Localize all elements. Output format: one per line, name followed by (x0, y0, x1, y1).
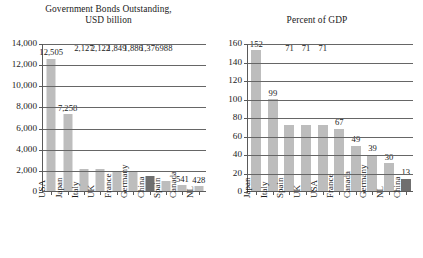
bar-value-label: 71 (285, 44, 294, 53)
gridline (248, 118, 413, 119)
y-axis-tick (244, 81, 248, 82)
x-axis-category-label: Spain (276, 177, 285, 198)
bar (284, 125, 294, 191)
x-axis-category-label: Canada (342, 171, 351, 198)
x-axis-category-label: UK (293, 185, 302, 198)
chart-title-left: Government Bonds Outstanding, USD billio… (12, 4, 205, 26)
y-axis-tick-label: 80 (233, 113, 242, 122)
x-axis-category-label: USA (309, 180, 318, 198)
x-axis-tick (289, 191, 290, 195)
x-axis-tick (306, 191, 307, 195)
x-axis-tick (51, 191, 52, 195)
bar-value-label: 39 (368, 144, 377, 153)
y-axis-tick (244, 44, 248, 45)
x-axis-category-label: Germany (359, 165, 368, 199)
y-axis-tick (244, 155, 248, 156)
x-axis-tick (372, 191, 373, 195)
y-axis-tick (244, 63, 248, 64)
y-axis-tick (39, 192, 43, 193)
gridline (248, 81, 413, 82)
x-axis-category-label: UK (87, 185, 96, 198)
gridline (43, 65, 206, 66)
x-axis-category-label: France (103, 174, 112, 199)
bar-value-label: 99 (269, 89, 278, 98)
gridline (248, 63, 413, 64)
x-axis-category-label: China (136, 177, 145, 199)
y-axis-tick-label: 6,000 (16, 124, 37, 133)
bar (251, 50, 261, 191)
bar-value-label: 71 (318, 44, 327, 53)
x-axis-category-label: Italy (70, 182, 79, 199)
y-axis-tick (244, 118, 248, 119)
y-axis-tick (244, 174, 248, 175)
chart-panel-percent-of-gdp: Percent of GDP 152Japan99Italy71Spain71U… (211, 0, 423, 258)
x-axis-tick (406, 191, 407, 195)
bar-value-label: 428 (192, 176, 205, 185)
gridline (43, 129, 206, 130)
y-axis-tick-label: 40 (233, 150, 242, 159)
gridline (43, 171, 206, 172)
y-axis-tick-label: 120 (228, 76, 242, 85)
bar-value-label: 67 (335, 118, 344, 127)
x-axis-category-label: Spain (152, 177, 161, 198)
two-panel-bar-chart-figure: Government Bonds Outstanding, USD billio… (0, 0, 423, 258)
x-axis-category-label: Japan (243, 178, 252, 199)
x-axis-category-label: USA (38, 180, 47, 198)
y-axis-tick-label: 8,000 (16, 103, 37, 112)
x-axis-category-label: Canada (169, 171, 178, 198)
y-axis-tick-label: 10,000 (12, 82, 37, 91)
x-axis-tick (133, 191, 134, 195)
y-axis-tick-label: 140 (228, 58, 242, 67)
chart-title-right: Percent of GDP (219, 15, 415, 26)
y-axis-tick-label: 160 (228, 39, 242, 48)
bar (401, 179, 411, 191)
gridline (248, 155, 413, 156)
plot-area-left: 12,505USA7,258Japan2,127Italy2,122UK1,84… (42, 44, 206, 192)
x-axis-tick (389, 191, 390, 195)
y-axis-tick (39, 171, 43, 172)
y-axis-tick (39, 86, 43, 87)
x-axis-category-label: Germany (120, 165, 129, 199)
gridline (248, 44, 413, 45)
x-axis-tick (182, 191, 183, 195)
y-axis-tick-label: 2,000 (16, 166, 37, 175)
gridline (43, 86, 206, 87)
bar-value-label: 1,376 (140, 44, 159, 53)
gridline (43, 44, 206, 45)
y-axis-tick (39, 129, 43, 130)
y-axis-tick (244, 192, 248, 193)
x-axis-tick (339, 191, 340, 195)
y-axis-tick (244, 100, 248, 101)
chart-panel-government-bonds: Government Bonds Outstanding, USD billio… (0, 0, 211, 258)
y-axis-tick-label: 12,000 (12, 61, 37, 70)
x-axis-category-label: Italy (259, 182, 268, 199)
x-axis-category-label: China (392, 177, 401, 199)
y-axis-tick (39, 150, 43, 151)
bar-value-label: 71 (302, 44, 311, 53)
x-axis-tick (256, 191, 257, 195)
gridline (43, 107, 206, 108)
x-axis-category-label: France (326, 174, 335, 199)
bar-value-label: 30 (385, 153, 394, 162)
gridline (248, 137, 413, 138)
y-axis-tick-label: 4,000 (16, 145, 37, 154)
y-axis-tick-label: 0 (237, 187, 242, 196)
bar-value-label: 541 (176, 175, 189, 184)
y-axis-tick-label: 20 (233, 169, 242, 178)
x-axis-category-label: NL (185, 186, 194, 198)
x-axis-tick (199, 191, 200, 195)
y-axis-tick-label: 0 (32, 187, 37, 196)
y-axis-tick (39, 44, 43, 45)
x-axis-category-label: NL (376, 186, 385, 198)
x-axis-tick (150, 191, 151, 195)
x-axis-tick (100, 191, 101, 195)
bar (63, 114, 72, 191)
bar-value-label: 988 (160, 44, 173, 53)
gridline (248, 100, 413, 101)
y-axis-tick-label: 14,000 (12, 39, 37, 48)
x-axis-category-label: Japan (54, 178, 63, 199)
x-axis-tick (68, 191, 69, 195)
y-axis-tick-label: 60 (233, 132, 242, 141)
y-axis-tick (39, 107, 43, 108)
y-axis-tick-label: 100 (228, 95, 242, 104)
